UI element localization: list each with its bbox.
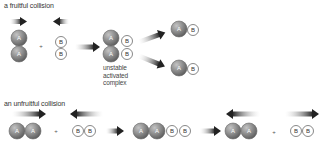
left-motion-arrow-icon (53, 17, 69, 26)
svg-text:B: B (191, 66, 195, 72)
product-arrow-down-icon (137, 51, 167, 71)
svg-text:B: B (76, 128, 80, 134)
svg-text:B: B (306, 128, 310, 134)
product-ab-top: A B (171, 21, 199, 37)
molecule-b2: B B (73, 126, 96, 137)
svg-text:A: A (231, 128, 235, 134)
svg-text:A: A (155, 128, 159, 134)
product-ab-bottom: A B (171, 60, 199, 76)
svg-text:A: A (17, 35, 21, 41)
plus-sign: + (54, 128, 58, 134)
collision-diagram: A A + B B A A B B A B (0, 0, 321, 146)
left-motion-arrow-icon (70, 109, 103, 119)
svg-text:B: B (59, 51, 63, 57)
svg-text:A: A (31, 128, 35, 134)
svg-text:B: B (125, 38, 129, 44)
svg-text:B: B (125, 51, 129, 57)
svg-text:B: B (183, 128, 187, 134)
svg-text:B: B (88, 128, 92, 134)
svg-text:B: B (191, 27, 195, 33)
molecule-a2: A A (9, 123, 41, 139)
svg-text:B: B (294, 128, 298, 134)
reaction-arrow-icon (106, 126, 124, 136)
svg-text:A: A (17, 51, 21, 57)
right-motion-arrow-icon (10, 17, 27, 26)
svg-text:A: A (109, 51, 113, 57)
svg-text:B: B (170, 128, 174, 134)
svg-text:B: B (59, 39, 63, 45)
svg-text:A: A (109, 35, 113, 41)
collision-complex: A A B B (133, 123, 191, 139)
svg-text:A: A (15, 128, 19, 134)
right-motion-arrow-icon (285, 109, 319, 119)
molecule-a2-result: A A (225, 123, 257, 139)
molecule-b2-result: B B (291, 126, 314, 137)
svg-text:A: A (177, 26, 181, 32)
reaction-arrow-icon (200, 126, 221, 136)
left-motion-arrow-icon (226, 109, 260, 119)
plus-sign: + (272, 129, 276, 135)
svg-text:A: A (247, 128, 251, 134)
product-arrow-up-icon (137, 28, 167, 47)
molecule-b2: B B (56, 37, 67, 60)
activated-complex: A A B B (103, 30, 133, 62)
right-motion-arrow-icon (12, 109, 46, 119)
svg-text:A: A (177, 65, 181, 71)
reaction-arrow-icon (75, 42, 100, 52)
svg-text:A: A (139, 128, 143, 134)
plus-sign: + (39, 43, 43, 49)
molecule-a2: A A (11, 30, 27, 62)
